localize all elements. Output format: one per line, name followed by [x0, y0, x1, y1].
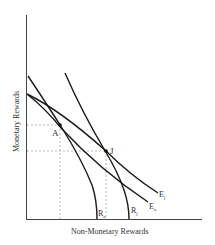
label-r-a: Ra — [98, 209, 106, 219]
curve-r-a — [28, 76, 97, 219]
label-e-a: Ea — [149, 202, 157, 212]
x-axis-label: Non-Monetary Rewards — [71, 227, 149, 236]
curve-r-j — [65, 73, 129, 219]
curve-e-j — [27, 94, 158, 193]
diagram-canvas: A J Ej Ea Ra Rj Non-Monetary Rewards Mon… — [0, 0, 215, 245]
y-axis-label: Monetary Rewards — [12, 91, 21, 152]
label-e-j: Ej — [159, 190, 165, 200]
point-a — [58, 123, 62, 127]
curve-e-a — [27, 94, 148, 202]
point-j — [104, 149, 108, 153]
label-j: J — [110, 146, 114, 156]
dashed-guides — [27, 125, 106, 219]
label-r-j: Rj — [131, 206, 138, 216]
label-a: A — [52, 128, 59, 138]
